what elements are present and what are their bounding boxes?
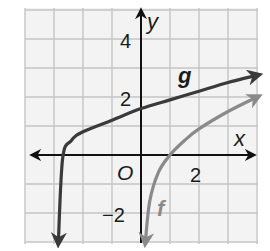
- x-axis-label: x: [233, 126, 246, 151]
- y-axis-label: y: [145, 9, 160, 34]
- y-tick-label-neg2: −2: [102, 204, 125, 226]
- y-tick-label-2: 2: [120, 88, 131, 110]
- y-tick-label-4: 4: [120, 30, 131, 52]
- x-tick-label-2: 2: [190, 164, 201, 186]
- curve-g-label: g: [177, 63, 192, 88]
- origin-label: O: [117, 161, 133, 184]
- graph: 4 2 −2 2 O y x g f: [0, 0, 270, 251]
